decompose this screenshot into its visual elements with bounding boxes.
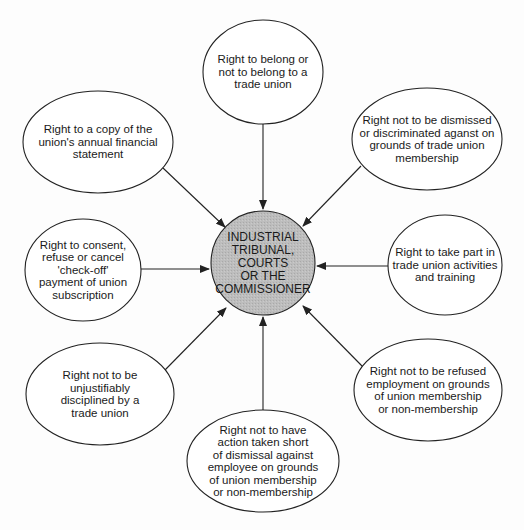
- arrow-dismissal: [303, 166, 361, 226]
- node-ellipse-refused-employment: [354, 339, 502, 441]
- arrow-disciplined: [165, 308, 226, 370]
- node-ellipse-financial-statement: [23, 91, 173, 193]
- node-ellipse-belong: [203, 20, 323, 124]
- node-ellipse-activities: [388, 215, 502, 315]
- center-layer: [211, 211, 315, 315]
- node-ellipse-disciplined: [26, 343, 174, 445]
- node-ellipse-dismissal: [352, 88, 502, 190]
- arrow-financial-statement: [163, 168, 225, 227]
- node-ellipse-action-short: [187, 410, 339, 512]
- center-circle: [211, 211, 315, 315]
- diagram-canvas: Right to belong or not to belong to a tr…: [0, 0, 524, 530]
- diagram-graphics: [0, 0, 524, 530]
- node-ellipse-check-off: [25, 219, 141, 321]
- arrow-refused-employment: [303, 306, 362, 366]
